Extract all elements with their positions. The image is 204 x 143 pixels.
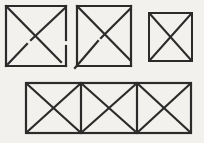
figure-2-diagonal-tr-center — [101, 9, 130, 38]
line-figures-illustration — [0, 0, 204, 143]
figure-2-diagonal-center-bl-overshoot — [75, 41, 98, 68]
figure-4-rectangle-three-cells — [26, 83, 191, 133]
figure-canvas — [0, 0, 204, 143]
figure-1-diagonal-tr-center — [31, 8, 65, 40]
figure-2-square-with-x — [75, 6, 131, 68]
figure-1-diagonal-center-bl — [8, 44, 27, 64]
figure-1-diagonal-tl-br — [7, 7, 61, 62]
figure-1-square-with-x — [6, 6, 66, 66]
figure-3-square-with-x — [149, 13, 192, 61]
